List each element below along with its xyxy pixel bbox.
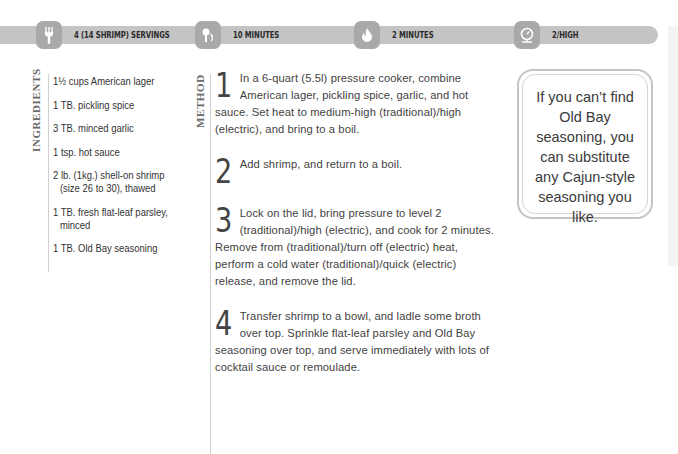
method-heading: METHOD: [194, 74, 206, 128]
step-number: 2: [215, 157, 232, 185]
method-step: 1 In a 6-quart (5.5l) pressure cooker, c…: [215, 70, 497, 138]
ingredient-item: 1 TB. Old Bay seasoning: [53, 242, 182, 255]
ingredient-text: 1 TB. Old Bay seasoning: [53, 242, 157, 254]
tip-box: If you can’t find Old Bay seasoning, you…: [517, 69, 653, 219]
servings-info: 4 (14 SHRIMP) SERVINGS: [36, 20, 187, 50]
cook-time-label: 2 MINUTES: [392, 30, 434, 40]
tip-inner-border: If you can’t find Old Bay seasoning, you…: [522, 74, 648, 214]
method-step: 4 Transfer shrimp to a bowl, and ladle s…: [215, 308, 497, 376]
method-step: 3 Lock on the lid, bring pressure to lev…: [215, 205, 497, 290]
prep-time-icon: [195, 21, 221, 49]
ingredient-item: 1 TB. fresh flat-leaf parsley,minced: [53, 206, 182, 232]
ingredient-text: 1 tsp. hot sauce: [53, 146, 120, 158]
step-number: 3: [215, 206, 232, 234]
step-number: 1: [215, 71, 232, 99]
method-step: 2 Add shrimp, and return to a boil.: [215, 156, 497, 185]
ingredient-item: 3 TB. minced garlic: [53, 122, 182, 135]
ingredient-text: 1½ cups American lager: [53, 75, 154, 87]
ingredient-text: 1 TB. fresh flat-leaf parsley,: [53, 206, 168, 218]
pressure-gauge-icon: [514, 21, 540, 49]
ingredient-text: 2 lb. (1kg.) shell-on shrimp: [53, 169, 164, 181]
method-divider: [210, 74, 211, 454]
prep-time-label: 10 MINUTES: [233, 30, 279, 40]
method-steps: 1 In a 6-quart (5.5l) pressure cooker, c…: [215, 70, 497, 394]
ingredients-divider: [48, 74, 49, 272]
ingredient-text-cont: minced: [53, 219, 182, 232]
pressure-info: 2/HIGH: [514, 20, 583, 50]
step-text: Transfer shrimp to a bowl, and ladle som…: [215, 310, 489, 373]
step-number: 4: [215, 309, 232, 337]
ingredient-item: 1½ cups American lager: [53, 75, 182, 88]
flame-icon: [354, 21, 380, 49]
step-text: In a 6-quart (5.5l) pressure cooker, com…: [215, 72, 468, 135]
step-text: Add shrimp, and return to a boil.: [240, 158, 403, 170]
ingredient-text: 3 TB. minced garlic: [53, 122, 134, 134]
tip-text: If you can’t find Old Bay seasoning, you…: [523, 75, 647, 227]
fork-icon: [36, 21, 62, 49]
ingredient-item: 1 TB. pickling spice: [53, 99, 182, 112]
ingredient-text-cont: (size 26 to 30), thawed: [53, 182, 182, 195]
ingredient-item: 1 tsp. hot sauce: [53, 146, 182, 159]
cook-time-info: 2 MINUTES: [354, 20, 441, 50]
pressure-label: 2/HIGH: [552, 30, 579, 40]
servings-label: 4 (14 SHRIMP) SERVINGS: [74, 30, 170, 40]
ingredients-list: 1½ cups American lager 1 TB. pickling sp…: [53, 75, 183, 266]
page-edge: [668, 26, 678, 266]
prep-time-info: 10 MINUTES: [195, 20, 287, 50]
ingredient-text: 1 TB. pickling spice: [53, 99, 134, 111]
step-text: Lock on the lid, bring pressure to level…: [215, 207, 494, 287]
ingredients-heading: INGREDIENTS: [30, 68, 42, 152]
ingredient-item: 2 lb. (1kg.) shell-on shrimp(size 26 to …: [53, 169, 182, 195]
